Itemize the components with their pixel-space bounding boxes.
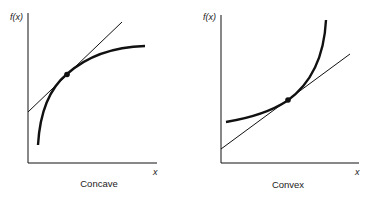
concave-x-label: x [153, 168, 158, 177]
concave-y-label: f(x) [10, 13, 23, 22]
concave-curve [38, 46, 145, 145]
convex-panel [221, 15, 359, 163]
concave-panel [28, 13, 157, 163]
convex-tangent-point [285, 97, 291, 103]
convex-curve [226, 20, 326, 122]
diagram-canvas [0, 0, 368, 198]
convex-y-label: f(x) [203, 13, 216, 22]
convex-x-label: x [355, 168, 360, 177]
concave-caption: Concave [80, 178, 118, 189]
convex-caption: Convex [272, 179, 304, 190]
concave-tangent-point [64, 72, 70, 78]
